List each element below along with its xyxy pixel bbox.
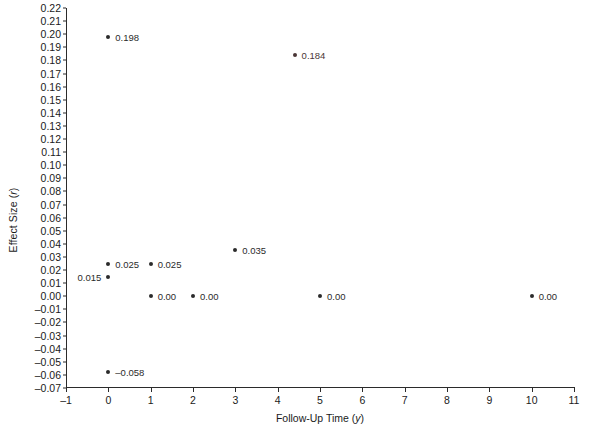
y-axis-tick-label: 0.15 xyxy=(15,94,66,106)
y-axis-tick-mark xyxy=(63,296,66,297)
y-axis-tick-mark xyxy=(63,34,66,35)
y-axis-tick-label: –0.03 xyxy=(15,330,66,342)
y-axis-tick-label: 0.11 xyxy=(15,146,66,158)
y-axis-tick-mark xyxy=(63,125,66,126)
y-axis-tick-label: 0.09 xyxy=(15,172,66,184)
x-axis-tick-mark xyxy=(362,387,363,392)
y-axis-tick-mark xyxy=(63,374,66,375)
y-axis-tick-mark xyxy=(63,204,66,205)
y-axis-tick-label: –0.02 xyxy=(15,316,66,328)
x-axis-tick-label: 10 xyxy=(526,394,538,406)
y-axis-tick-label: 0.16 xyxy=(15,81,66,93)
x-axis-tick-label: 1 xyxy=(148,394,154,406)
y-axis-tick-label: 0.07 xyxy=(15,199,66,211)
data-point-label: 0.015 xyxy=(78,271,102,282)
data-point-label: –0.058 xyxy=(115,367,144,378)
y-axis-tick-label: 0.08 xyxy=(15,185,66,197)
data-point-label: 0.035 xyxy=(242,245,266,256)
y-axis-tick-mark xyxy=(63,191,66,192)
y-axis-tick-mark xyxy=(63,309,66,310)
x-axis-tick-label: 6 xyxy=(359,394,365,406)
x-axis-tick-label: 4 xyxy=(275,394,281,406)
data-point-marker xyxy=(106,370,110,374)
x-axis-title-text: Follow-Up Time xyxy=(276,412,349,424)
y-axis-tick-mark xyxy=(63,112,66,113)
data-point-marker xyxy=(106,262,110,266)
y-axis-tick-mark xyxy=(63,47,66,48)
x-axis-title-symbol: y xyxy=(355,412,360,424)
y-axis-tick-label: 0.01 xyxy=(15,277,66,289)
x-axis-tick-mark xyxy=(447,387,448,392)
data-point-label: 0.184 xyxy=(302,50,326,61)
y-axis-tick-label: 0.20 xyxy=(15,28,66,40)
data-point-marker xyxy=(191,294,195,298)
y-axis-tick-label: 0.06 xyxy=(15,212,66,224)
y-axis-tick-mark xyxy=(63,361,66,362)
y-axis-tick-mark xyxy=(63,99,66,100)
y-axis-tick-label: 0.03 xyxy=(15,251,66,263)
scatter-plot-figure: Effect Size (r) 0.220.210.200.190.180.17… xyxy=(0,0,594,440)
y-axis-tick-label: –0.07 xyxy=(15,382,66,394)
x-axis-tick-mark xyxy=(320,387,321,392)
y-axis-tick-label: 0.00 xyxy=(15,290,66,302)
y-axis-tick-mark xyxy=(63,86,66,87)
y-axis-tick-mark xyxy=(63,139,66,140)
data-point-label: 0.00 xyxy=(200,291,219,302)
y-axis-tick-label: 0.02 xyxy=(15,264,66,276)
x-axis-tick-mark xyxy=(235,387,236,392)
x-axis-tick-mark xyxy=(574,387,575,392)
y-axis-tick-label: –0.05 xyxy=(15,356,66,368)
x-axis-tick-mark xyxy=(108,387,109,392)
data-point-marker xyxy=(149,294,153,298)
y-axis-tick-label: 0.22 xyxy=(15,2,66,14)
y-axis-tick-mark xyxy=(63,8,66,9)
data-point-label: 0.025 xyxy=(115,258,139,269)
y-axis-tick-label: 0.04 xyxy=(15,238,66,250)
data-point-label: 0.00 xyxy=(158,291,177,302)
y-axis-tick-label: 0.18 xyxy=(15,54,66,66)
x-axis-tick-mark xyxy=(193,387,194,392)
y-axis-tick-label: –0.04 xyxy=(15,343,66,355)
x-axis-tick-label: 9 xyxy=(486,394,492,406)
x-axis-tick-label: 3 xyxy=(232,394,238,406)
x-axis-tick-label: 7 xyxy=(402,394,408,406)
data-point-marker xyxy=(106,275,110,279)
y-axis-tick-label: –0.06 xyxy=(15,369,66,381)
y-axis-tick-mark xyxy=(63,243,66,244)
data-point-marker xyxy=(233,248,237,252)
y-axis-tick-mark xyxy=(63,178,66,179)
y-axis-line xyxy=(66,8,67,388)
data-point-marker xyxy=(106,35,110,39)
y-axis-tick-mark xyxy=(63,73,66,74)
x-axis-tick-label: –1 xyxy=(60,394,72,406)
y-axis-tick-mark xyxy=(63,322,66,323)
data-point-label: 0.00 xyxy=(539,291,558,302)
y-axis-tick-label: 0.19 xyxy=(15,41,66,53)
y-axis-tick-label: 0.05 xyxy=(15,225,66,237)
data-point-label: 0.00 xyxy=(327,291,346,302)
x-axis-tick-mark xyxy=(151,387,152,392)
y-axis-tick-label: 0.13 xyxy=(15,120,66,132)
x-axis-tick-mark xyxy=(405,387,406,392)
y-axis-tick-mark xyxy=(63,335,66,336)
x-axis-tick-mark xyxy=(66,387,67,392)
y-axis-tick-mark xyxy=(63,230,66,231)
data-point-marker xyxy=(149,262,153,266)
data-point-marker xyxy=(318,294,322,298)
data-point-label: 0.198 xyxy=(115,31,139,42)
x-axis-tick-label: 2 xyxy=(190,394,196,406)
x-axis-tick-label: 0 xyxy=(105,394,111,406)
y-axis-tick-mark xyxy=(63,60,66,61)
y-axis-tick-mark xyxy=(63,152,66,153)
x-axis-tick-mark xyxy=(532,387,533,392)
y-axis-tick-label: 0.17 xyxy=(15,68,66,80)
y-axis-tick-label: –0.01 xyxy=(15,303,66,315)
y-axis-tick-label: 0.14 xyxy=(15,107,66,119)
y-axis-tick-mark xyxy=(63,21,66,22)
data-point-marker xyxy=(293,53,297,57)
y-axis-tick-mark xyxy=(63,348,66,349)
x-axis-tick-label: 5 xyxy=(317,394,323,406)
y-axis-tick-label: 0.10 xyxy=(15,159,66,171)
x-axis-tick-label: 11 xyxy=(569,394,580,406)
y-axis-tick-mark xyxy=(63,217,66,218)
